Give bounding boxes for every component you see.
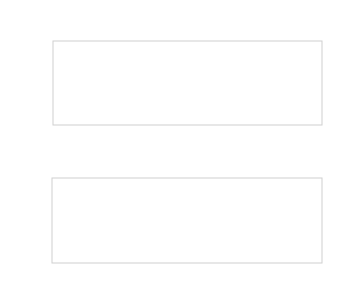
plot-frame — [52, 178, 322, 263]
pdf-plot — [53, 41, 322, 125]
figure-canvas — [0, 0, 341, 302]
figure — [0, 0, 341, 302]
plot-frame — [53, 41, 322, 125]
cdf-plot — [52, 178, 322, 263]
